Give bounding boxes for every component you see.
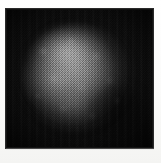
image-plate xyxy=(6,9,153,148)
scan-streak-overlay xyxy=(7,10,152,147)
scanned-page xyxy=(0,0,161,163)
